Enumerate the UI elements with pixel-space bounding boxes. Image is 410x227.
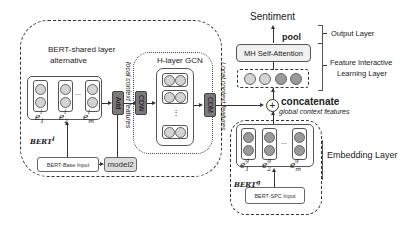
arrow-right-icon: [199, 103, 203, 107]
neuron-icon: [87, 84, 98, 95]
concatenate-label: concatenate: [281, 96, 339, 107]
neuron-icon: [164, 92, 175, 103]
sentiment-label: Sentiment: [250, 11, 295, 22]
arrow-right-icon: [260, 103, 264, 107]
connector-line: [67, 124, 68, 157]
ellipsis: ...: [281, 138, 287, 145]
connector-line: [274, 170, 275, 187]
gcn-layer-1: [162, 73, 188, 87]
local-context-features-label-2: Local context features: [220, 62, 227, 131]
arrow-up-icon: [271, 25, 275, 29]
neuron-icon: [164, 75, 175, 86]
feature-layer-label-line1: Feature Interactive: [330, 58, 393, 67]
gcn-layer-2: [162, 90, 188, 104]
neuron-icon: [290, 73, 302, 85]
feature-layer-brace: [318, 43, 323, 91]
arrow-up-icon: [272, 168, 276, 172]
arrow-up-icon: [271, 111, 275, 115]
ellipsis: ...: [75, 89, 81, 96]
brace-tick: [323, 33, 327, 34]
embedding-label-em-global: emg: [290, 158, 305, 172]
neuron-icon: [294, 145, 305, 156]
model2-box: model2: [104, 157, 137, 172]
neuron-icon: [294, 132, 305, 143]
neuron-icon: [244, 73, 256, 85]
cdm-box: CDM: [204, 93, 216, 117]
cdw-box: CDW: [135, 91, 147, 115]
arrow-up-icon: [65, 121, 69, 125]
embedding-layer-label: Embedding Layer: [327, 150, 398, 160]
mh-self-attention-box: MH Self-Attention: [236, 44, 311, 62]
feature-layer-label-line2: Learning Layer: [337, 69, 387, 78]
embedding-label-e1-global: e1g: [240, 158, 253, 172]
mh-self-attention-label: MH Self-Attention: [244, 49, 303, 58]
neuron-icon: [60, 84, 71, 95]
brace-tick: [323, 65, 327, 66]
neuron-icon: [264, 132, 275, 143]
connector-line: [273, 27, 274, 43]
neuron-icon: [87, 97, 98, 108]
gcn-ellipsis: ⋮: [172, 108, 180, 117]
embedding-layer-bar: [322, 140, 323, 180]
neuron-icon: [259, 73, 271, 85]
neuron-icon: [35, 84, 46, 95]
global-context-features-label: global context features: [279, 108, 349, 115]
neuron-icon: [175, 127, 186, 138]
neuron-icon: [243, 145, 254, 156]
neuron-icon: [264, 145, 275, 156]
output-layer-brace: [318, 25, 323, 44]
neuron-icon: [175, 92, 186, 103]
neuron-icon: [275, 73, 287, 85]
gcn-layer-h: [162, 125, 188, 139]
bert-shared-title-line1: BERT-shared layer: [48, 45, 115, 54]
neuron-icon: [35, 97, 46, 108]
embedding-label-em-local: eml: [83, 110, 96, 124]
embedding-label-e1-local: e1l: [35, 110, 46, 124]
neuron-icon: [164, 127, 175, 138]
add-box: Add: [112, 91, 124, 115]
local-context-features-label: local context features: [125, 62, 132, 128]
connector-line: [216, 105, 262, 106]
output-layer-label: Output Layer: [331, 29, 374, 38]
feature-neurons-box: [237, 69, 309, 88]
bert-shared-title-line2: alternative: [50, 56, 87, 65]
pool-label: pool: [282, 32, 301, 42]
bert-local-label: BERTl: [30, 135, 54, 146]
arrow-up-icon: [271, 88, 275, 92]
gcn-title: H-layer GCN: [157, 56, 203, 65]
neuron-icon: [243, 132, 254, 143]
bert-spc-input-box: BERT-SPC Input: [245, 187, 305, 204]
neuron-icon: [60, 97, 71, 108]
connector-line: [117, 115, 118, 157]
bert-base-input-box: BERT-Base Input: [37, 157, 99, 172]
neuron-icon: [175, 75, 186, 86]
